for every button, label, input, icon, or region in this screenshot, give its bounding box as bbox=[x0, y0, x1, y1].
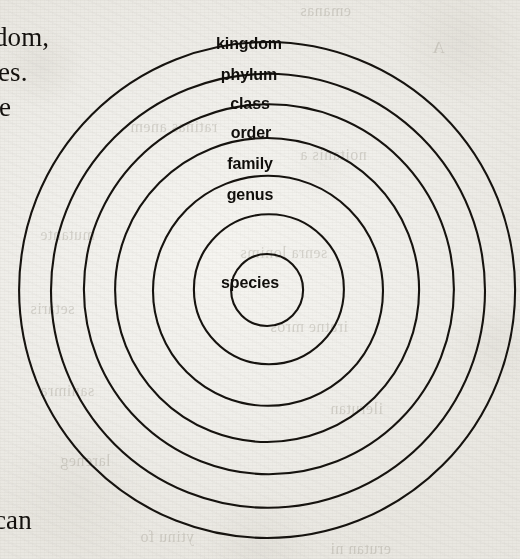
ring-label-family: family bbox=[227, 155, 273, 173]
ring-label-species: species bbox=[221, 274, 279, 292]
ring-label-phylum: phylum bbox=[221, 66, 277, 84]
ring-label-class: class bbox=[230, 95, 270, 113]
ring-label-order: order bbox=[231, 124, 271, 142]
scanned-page: emanasAratinas anemnoitanis amutantesenr… bbox=[0, 0, 520, 559]
ring-label-kingdom: kingdom bbox=[216, 35, 282, 53]
ring-label-genus: genus bbox=[227, 186, 274, 204]
